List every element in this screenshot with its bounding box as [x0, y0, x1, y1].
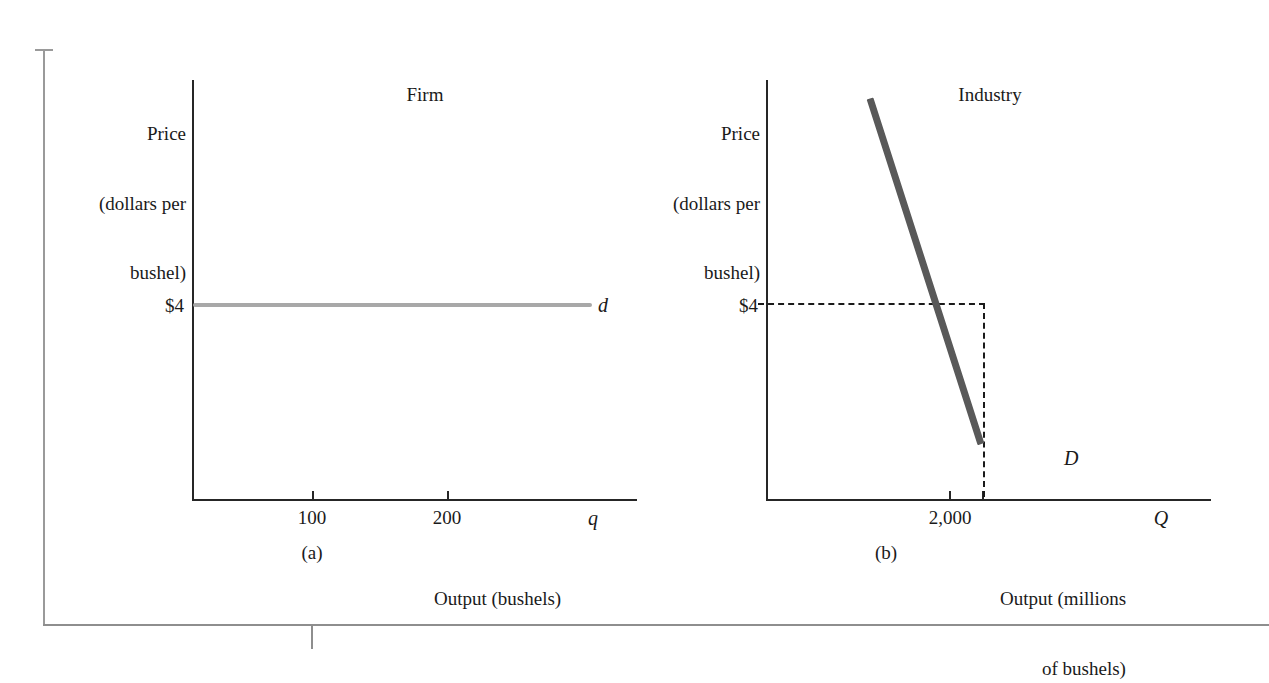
firm-x-tick-200: [447, 491, 449, 500]
firm-x-axis-caption: Output (bushels): [434, 541, 644, 657]
industry-x-tick-2000: [949, 491, 951, 500]
industry-price-guide-horizontal: [758, 303, 985, 305]
firm-x-variable: q: [578, 506, 608, 530]
firm-y-axis-label: Price (dollars per bushel): [36, 76, 186, 331]
industry-quantity-guide-vertical: [983, 303, 985, 497]
industry-x-axis: [766, 499, 1211, 501]
industry-price-label: $4: [702, 294, 758, 317]
industry-y-axis-label-line1: Price: [610, 122, 760, 145]
industry-x-axis-caption: Output (millions of bushels): [1000, 541, 1250, 683]
industry-demand-curve-label: D: [1064, 446, 1090, 470]
industry-demand-curve: [867, 97, 985, 445]
industry-panel-title: Industry: [930, 83, 1050, 106]
industry-x-variable: Q: [1146, 506, 1176, 530]
firm-y-axis-label-line3: bushel): [36, 261, 186, 284]
industry-y-axis-label: Price (dollars per bushel): [610, 76, 760, 331]
firm-x-tick-label-100: 100: [277, 506, 347, 529]
firm-price-label: $4: [128, 294, 184, 317]
firm-y-axis-label-line1: Price: [36, 122, 186, 145]
industry-y-axis-label-line2: (dollars per: [610, 192, 760, 215]
firm-y-axis-label-line2: (dollars per: [36, 192, 186, 215]
industry-x-axis-caption-line1: Output (millions: [1000, 587, 1250, 610]
industry-x-axis-caption-line2: of bushels): [1000, 657, 1250, 680]
firm-y-axis: [192, 80, 194, 501]
firm-panel-id: (a): [282, 541, 342, 564]
industry-y-axis-label-line3: bushel): [610, 261, 760, 284]
page-edge-tick: [311, 626, 313, 649]
firm-x-axis: [192, 499, 637, 501]
firm-x-tick-label-200: 200: [412, 506, 482, 529]
firm-x-axis-caption-line1: Output (bushels): [434, 587, 644, 610]
industry-panel-id: (b): [856, 541, 916, 564]
firm-panel-title: Firm: [380, 83, 470, 106]
industry-x-tick-label-2000: 2,000: [909, 506, 991, 529]
firm-x-tick-100: [312, 491, 314, 500]
industry-y-axis: [766, 80, 768, 501]
firm-demand-curve: [193, 303, 592, 307]
